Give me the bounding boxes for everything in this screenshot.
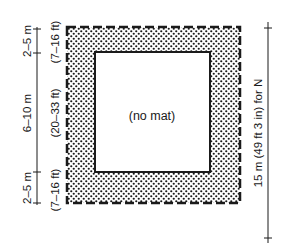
no-mat-label: (no mat) (129, 109, 176, 123)
left-dimension-line (33, 27, 41, 205)
right-dimension-label: 15 m (49 ft 3 in) for N (252, 79, 264, 188)
left-top-metric-label: 2–5 m (21, 25, 33, 57)
right-dimension-line (264, 22, 272, 243)
left-middle-metric-label: 6–10 m (21, 94, 33, 132)
left-bottom-imperial-label: (7–16 ft) (49, 168, 61, 211)
left-bottom-metric-label: 2–5 m (21, 172, 33, 204)
left-middle-imperial-label: (20–33 ft) (49, 88, 61, 137)
left-top-imperial-label: (7–16 ft) (49, 20, 61, 63)
mat-layout-diagram: 2–5 m 6–10 m 2–5 m (7–16 ft) (20–33 ft) … (0, 0, 294, 245)
